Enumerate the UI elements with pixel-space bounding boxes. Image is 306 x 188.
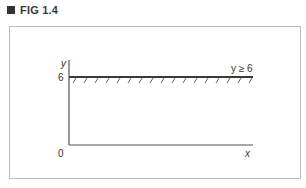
origin-label: 0 xyxy=(58,148,64,159)
inequality-label: y ≥ 6 xyxy=(231,63,253,74)
hatching xyxy=(73,78,252,83)
y-axis-label: y xyxy=(60,58,67,69)
x-axis-label: x xyxy=(244,148,251,159)
inequality-graph: y 6 0 x y ≥ 6 xyxy=(0,0,306,188)
y-tick-6: 6 xyxy=(58,72,64,83)
